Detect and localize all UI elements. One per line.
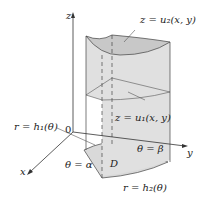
z-arrow-icon: [71, 12, 75, 18]
z-axis-label: z: [66, 11, 71, 21]
outer-curve-label: r = h₂(θ): [123, 183, 167, 193]
alpha-label: θ = α: [65, 160, 93, 170]
y-axis-label: y: [187, 148, 193, 158]
region-d-label: D: [110, 159, 118, 169]
beta-label: θ = β: [137, 144, 164, 154]
origin-label: 0: [65, 125, 71, 135]
inner-curve-label: r = h₁(θ): [14, 122, 58, 132]
top-surface-label: z = u₂(x, y): [140, 15, 196, 25]
pointer: [57, 128, 95, 145]
x-axis-label: x: [20, 167, 26, 177]
diagram: z y x 0 z = u₂(x, y) z = u₁(x, y) r = h₁…: [0, 0, 207, 199]
bottom-surface-label: z = u₁(x, y): [115, 113, 171, 123]
diagram-graphic: [0, 0, 207, 199]
